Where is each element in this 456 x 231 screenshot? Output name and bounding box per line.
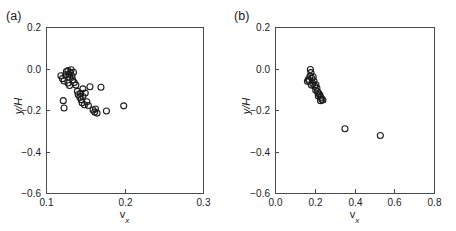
x-tick-label: 0.6 bbox=[388, 197, 402, 208]
y-tick-label: −0.4 bbox=[21, 147, 41, 158]
y-tick-label: −0.4 bbox=[250, 147, 270, 158]
data-point-marker bbox=[121, 103, 127, 109]
data-point-marker bbox=[61, 105, 67, 111]
data-point-marker bbox=[377, 133, 383, 139]
y-tick-label: 0.0 bbox=[27, 64, 41, 75]
x-tick-label: 0.2 bbox=[309, 197, 323, 208]
x-tick-label: 0.8 bbox=[428, 197, 442, 208]
data-point-marker bbox=[60, 98, 66, 104]
x-tick-label: 0.0 bbox=[269, 197, 283, 208]
y-tick-label: 0.0 bbox=[256, 64, 270, 75]
y-tick-label: −0.6 bbox=[250, 188, 270, 199]
y-tick-label: −0.2 bbox=[21, 105, 41, 116]
y-tick-label: −0.6 bbox=[21, 188, 41, 199]
data-point-marker bbox=[103, 108, 109, 114]
x-tick-label: 0.1 bbox=[40, 197, 54, 208]
x-tick-label: 0.4 bbox=[349, 197, 363, 208]
data-point-marker bbox=[85, 102, 91, 108]
data-point-marker bbox=[342, 126, 348, 132]
panel-a: (a) y/H vx 0.10.20.3−0.6−0.4−0.20.00.2 bbox=[0, 0, 228, 231]
panel-a-plot: 0.10.20.3−0.6−0.4−0.20.00.2 bbox=[0, 0, 228, 231]
y-tick-label: −0.2 bbox=[250, 105, 270, 116]
y-tick-label: 0.2 bbox=[27, 22, 41, 33]
figure-container: (a) y/H vx 0.10.20.3−0.6−0.4−0.20.00.2 (… bbox=[0, 0, 456, 231]
x-tick-label: 0.2 bbox=[119, 197, 133, 208]
data-point-marker bbox=[87, 84, 93, 90]
y-tick-label: 0.2 bbox=[256, 22, 270, 33]
data-point-marker bbox=[98, 84, 104, 90]
x-tick-label: 0.3 bbox=[197, 197, 211, 208]
panel-b-plot: 0.00.20.40.60.8−0.6−0.4−0.20.00.2 bbox=[228, 0, 456, 231]
panel-b: (b) y/H vx 0.00.20.40.60.8−0.6−0.4−0.20.… bbox=[228, 0, 456, 231]
